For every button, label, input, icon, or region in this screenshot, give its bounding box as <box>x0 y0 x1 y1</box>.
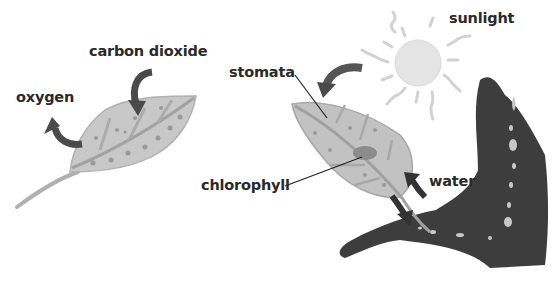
left-leaf <box>17 96 196 207</box>
sunlight-label: sunlight <box>449 10 514 26</box>
sun <box>362 12 470 119</box>
stomata-label: stomata <box>229 64 295 80</box>
water-arrow <box>412 180 425 197</box>
chlorophyll-label: chlorophyll <box>201 177 290 193</box>
carbon-dioxide-label: carbon dioxide <box>89 43 207 59</box>
chlorophyll-spot <box>353 146 377 160</box>
photosynthesis-diagram <box>0 0 553 285</box>
water-label: water <box>429 173 475 189</box>
sunlight-arrow <box>326 67 362 86</box>
oxygen-arrow <box>55 128 82 144</box>
oxygen-label: oxygen <box>16 89 74 105</box>
